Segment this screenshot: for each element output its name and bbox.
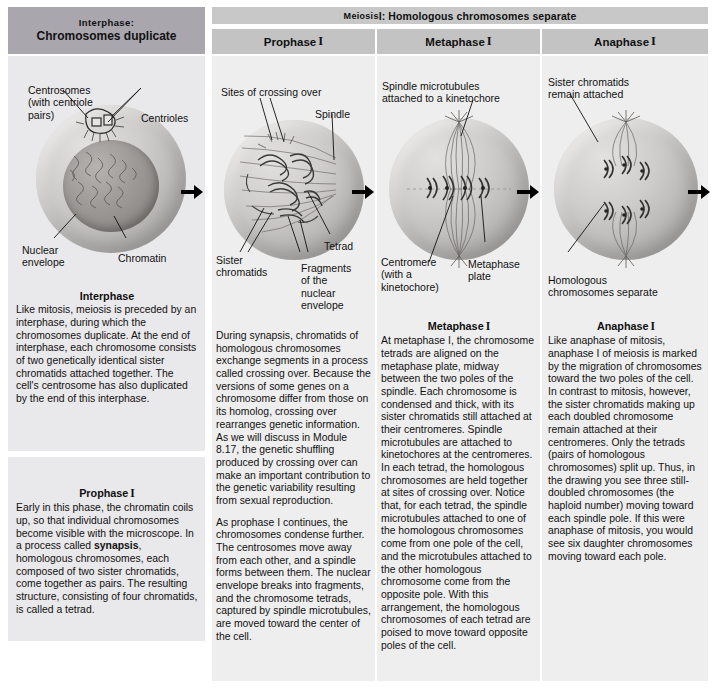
caption-anaphase-title-roman: I [649,320,656,333]
caption-prophase-left-title-roman: I [128,487,135,500]
meiosis-banner: Meiosis I: Homologous chromosomes separa… [212,7,708,24]
label-chromatin: Chromatin [118,252,166,264]
caption-metaphase-column: MetaphaseI At metaphase I, the chromosom… [381,320,537,652]
caption-metaphase-title-text: Metaphase [428,320,484,332]
phase-header-metaphase-label: Metaphase [425,36,484,48]
arrow-prophase-to-metaphase-icon [352,185,374,199]
label-spindle: Spindle [315,108,350,120]
phase-header-anaphase-1: AnaphaseI [542,29,708,54]
meiosis-banner-smallcaps: Meiosis [344,11,379,21]
caption-prophase-para2: As prophase I continues, the chromosomes… [216,517,372,644]
interphase-header-line1: Interphase: [79,17,135,29]
caption-prophase-left-title-text: Prophase [79,487,128,499]
caption-interphase-title: Interphase [16,290,198,303]
meiosis-banner-text: I: Homologous chromosomes separate [379,10,577,22]
label-homologous-chromosomes-separate: Homologous chromosomes separate [548,274,658,299]
label-sister-chromatids-remain-attached: Sister chromatids remain attached [548,76,629,101]
phase-header-anaphase-roman: I [649,34,656,49]
meiosis-figure: Meiosis I: Homologous chromosomes separa… [0,0,715,699]
arrow-anaphase-to-next-icon [688,185,710,199]
caption-prophase-left-title: ProphaseI [16,487,198,501]
label-centrioles: Centrioles [141,112,188,124]
phase-header-metaphase-roman: I [485,34,492,49]
caption-prophase-1-left: ProphaseI Early in this phase, the chrom… [16,487,198,616]
arrow-interphase-to-prophase-icon [181,185,203,199]
label-centromere-kinetochore: Centromere (with a kinetochore) [381,256,439,293]
phase-header-prophase-1: ProphaseI [212,29,375,54]
caption-prophase-column: During synapsis, chromatids of homologou… [216,330,372,653]
label-sites-of-crossing-over: Sites of crossing over [221,86,321,98]
caption-anaphase-title-text: Anaphase [597,320,649,332]
caption-anaphase-column: AnaphaseI Like anaphase of mitosis, anap… [548,320,704,564]
label-nuclear-envelope: Nuclear envelope [22,244,65,269]
caption-interphase: Interphase Like mitosis, meiosis is prec… [16,290,198,406]
label-sister-chromatids-prophase: Sister chromatids [216,254,267,279]
label-centrosomes: Centrosomes (with centriole pairs) [28,84,93,121]
caption-prophase-left-bold: synapsis [94,540,138,551]
phase-header-prophase-roman: I [316,34,323,49]
caption-prophase-left-part2: , homologous chromosomes, each composed … [16,540,197,614]
phase-header-anaphase-label: Anaphase [594,36,649,48]
arrow-metaphase-to-anaphase-icon [517,185,539,199]
label-spindle-microtubules-kinetochore: Spindle microtubules attached to a kinet… [382,80,500,105]
caption-prophase-para1: During synapsis, chromatids of homologou… [216,330,372,508]
caption-metaphase-body: At metaphase I, the chromosome tetrads a… [381,335,534,651]
caption-metaphase-title-roman: I [484,320,491,333]
phase-header-prophase-label: Prophase [264,36,316,48]
caption-anaphase-body: Like anaphase of mitosis, anaphase I of … [548,335,702,562]
interphase-header-line2: Chromosomes duplicate [36,29,176,44]
label-fragments-nuclear-envelope: Fragments of the nuclear envelope [301,262,351,312]
phase-header-metaphase-1: MetaphaseI [377,29,540,54]
label-tetrad: Tetrad [324,240,353,252]
caption-anaphase-title: AnaphaseI [548,320,704,334]
label-metaphase-plate: Metaphase plate [468,258,520,283]
interphase-header: Interphase: Chromosomes duplicate [8,7,205,54]
caption-metaphase-title: MetaphaseI [381,320,537,334]
caption-interphase-body: Like mitosis, meiosis is preceded by an … [16,304,196,404]
